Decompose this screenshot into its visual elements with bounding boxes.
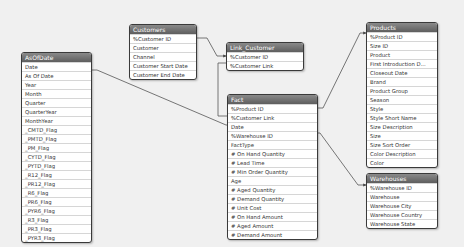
field-row[interactable]: Size Description: [367, 122, 437, 131]
field-row[interactable]: # Aged Quantity: [228, 185, 317, 194]
field-row[interactable]: _PR3_Flag: [22, 224, 91, 233]
field-row[interactable]: First Introduction D...: [367, 59, 437, 68]
table-title[interactable]: Products: [367, 23, 437, 32]
table-title[interactable]: Customers: [130, 25, 196, 34]
field-row[interactable]: _PR6_Flag: [22, 197, 91, 206]
field-row[interactable]: Year: [22, 80, 91, 89]
field-row[interactable]: _PR12_Flag: [22, 179, 91, 188]
field-row[interactable]: Style Short Name: [367, 113, 437, 122]
field-row[interactable]: Customer End Date: [130, 70, 196, 79]
link-customers-linkcustomer: [196, 38, 226, 56]
table-asofdate[interactable]: AsOfDate Date As Of Date Year Month Quar…: [21, 52, 92, 243]
field-row[interactable]: %Warehouse ID: [367, 183, 437, 192]
field-row[interactable]: Customer: [130, 43, 196, 52]
field-row[interactable]: Product: [367, 50, 437, 59]
field-row[interactable]: Channel: [130, 52, 196, 61]
table-products[interactable]: Products %Product ID Size ID Product Fir…: [366, 22, 438, 168]
field-row[interactable]: # On Hand Amount: [228, 212, 317, 221]
field-row[interactable]: Warehouse: [367, 192, 437, 201]
field-row[interactable]: _R12_Flag: [22, 170, 91, 179]
field-row[interactable]: Month: [22, 89, 91, 98]
field-row[interactable]: # Min Order Quantity: [228, 167, 317, 176]
field-row[interactable]: _CMTD_Flag: [22, 125, 91, 134]
field-row[interactable]: Customer Start Date: [130, 61, 196, 70]
field-row[interactable]: %Product ID: [367, 32, 437, 41]
field-row[interactable]: Product Group: [367, 86, 437, 95]
field-row[interactable]: Quarter: [22, 98, 91, 107]
field-row[interactable]: Size: [367, 131, 437, 140]
field-row[interactable]: # Unit Cost: [228, 203, 317, 212]
field-row[interactable]: Size ID: [367, 41, 437, 50]
field-row[interactable]: As Of Date: [22, 71, 91, 80]
table-link-customer[interactable]: Link_Customer %Customer ID %Customer Lin…: [226, 42, 304, 71]
table-title[interactable]: AsOfDate: [22, 53, 91, 62]
field-row[interactable]: Color: [367, 158, 437, 167]
table-fact[interactable]: Fact %Product ID %Customer Link Date %Wa…: [227, 94, 318, 240]
field-row[interactable]: # On Hand Quantity: [228, 149, 317, 158]
field-row[interactable]: Closeout Date: [367, 68, 437, 77]
field-row[interactable]: _PYTD_Flag: [22, 161, 91, 170]
table-warehouses[interactable]: Warehouses %Warehouse ID Warehouse Wareh…: [366, 173, 438, 229]
table-title[interactable]: Warehouses: [367, 174, 437, 183]
field-row[interactable]: %Customer Link: [228, 113, 317, 122]
field-row[interactable]: Warehouse City: [367, 201, 437, 210]
link-fact-warehouses: [317, 133, 366, 185]
field-row[interactable]: %Customer Link: [227, 61, 303, 70]
field-row[interactable]: # Aged Amount: [228, 221, 317, 230]
diagram-canvas: AsOfDate Date As Of Date Year Month Quar…: [0, 0, 464, 247]
field-row[interactable]: %Customer ID: [227, 52, 303, 61]
field-row[interactable]: Date: [22, 62, 91, 71]
field-row[interactable]: _PM_Flag: [22, 143, 91, 152]
field-row[interactable]: Style: [367, 104, 437, 113]
field-row[interactable]: Brand: [367, 77, 437, 86]
field-row[interactable]: _PYR3_Flag: [22, 233, 91, 242]
link-fact-products: [317, 33, 366, 108]
field-row[interactable]: Season: [367, 95, 437, 104]
field-row[interactable]: Warehouse State: [367, 219, 437, 228]
field-row[interactable]: # Demand Quantity: [228, 194, 317, 203]
field-row[interactable]: FactType: [228, 140, 317, 149]
field-row[interactable]: # Lead Time: [228, 158, 317, 167]
field-row[interactable]: MonthYear: [22, 116, 91, 125]
field-row[interactable]: %Customer ID: [130, 34, 196, 43]
field-row[interactable]: _PMTD_Flag: [22, 134, 91, 143]
field-row[interactable]: %Warehouse ID: [228, 131, 317, 140]
table-title[interactable]: Fact: [228, 95, 317, 104]
field-row[interactable]: Warehouse Country: [367, 210, 437, 219]
field-row[interactable]: _CYTD_Flag: [22, 152, 91, 161]
field-row[interactable]: _R3_Flag: [22, 215, 91, 224]
field-row[interactable]: # Demand Amount: [228, 230, 317, 239]
field-row[interactable]: Size Sort Order: [367, 140, 437, 149]
table-title[interactable]: Link_Customer: [227, 43, 303, 52]
field-row[interactable]: %Product ID: [228, 104, 317, 113]
field-row[interactable]: Date: [228, 122, 317, 131]
table-customers[interactable]: Customers %Customer ID Customer Channel …: [129, 24, 197, 80]
field-row[interactable]: Color Description: [367, 149, 437, 158]
field-row[interactable]: QuarterYear: [22, 107, 91, 116]
field-row[interactable]: Age: [228, 176, 317, 185]
field-row[interactable]: _PYR6_Flag: [22, 206, 91, 215]
field-row[interactable]: _R6_Flag: [22, 188, 91, 197]
